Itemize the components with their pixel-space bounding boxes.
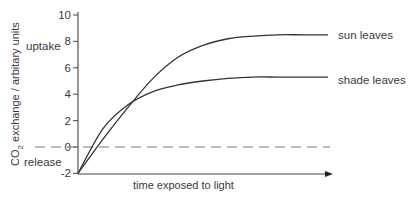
legend-label-sun-leaves: sun leaves — [338, 29, 393, 41]
annotation-uptake: uptake — [26, 40, 61, 52]
series-line-shade-leaves — [78, 77, 328, 173]
chart: 1086420-2 sun leaves shade leaves uptake… — [0, 0, 409, 197]
y-tick-label: 4 — [65, 88, 72, 100]
y-tick-label: 6 — [65, 62, 71, 74]
x-axis-arrow-icon — [325, 171, 333, 177]
y-axis-ticks: 1086420-2 — [58, 9, 78, 179]
series-line-sun-leaves — [78, 35, 328, 174]
legend-label-shade-leaves: shade leaves — [338, 74, 406, 86]
annotation-release: release — [24, 156, 62, 168]
x-axis-label: time exposed to light — [133, 179, 234, 191]
y-tick-label: -2 — [61, 167, 71, 179]
y-tick-label: 8 — [65, 35, 71, 47]
y-tick-label: 10 — [58, 9, 71, 21]
y-tick-label: 2 — [65, 115, 71, 127]
y-axis-label: CO2 exchange / arbitary units — [9, 22, 25, 166]
